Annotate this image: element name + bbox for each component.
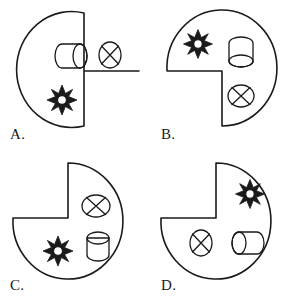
option-d-cell[interactable]: D. bbox=[151, 150, 302, 301]
crossed-ellipse-icon bbox=[82, 195, 110, 217]
notched-disc-outline bbox=[167, 10, 277, 126]
notched-disc-outline bbox=[161, 163, 271, 279]
cylinder-vertical-icon bbox=[87, 232, 109, 261]
option-b-cell[interactable]: B. bbox=[151, 0, 302, 150]
sun-icon bbox=[184, 30, 213, 59]
sun-icon bbox=[236, 180, 265, 209]
option-a-cell[interactable]: A. bbox=[0, 0, 151, 150]
notched-disc-outline bbox=[17, 12, 139, 128]
option-d-label: D. bbox=[161, 278, 176, 293]
sun-icon bbox=[43, 236, 73, 266]
crossed-ellipse-icon bbox=[228, 85, 254, 107]
option-c-label: C. bbox=[10, 278, 24, 293]
option-c-cell[interactable]: C. bbox=[0, 150, 151, 301]
answer-options-grid: A. B. bbox=[0, 0, 302, 301]
cylinder-horizontal-icon bbox=[232, 232, 264, 254]
option-a-label: A. bbox=[10, 127, 25, 142]
crossed-ellipse-icon bbox=[99, 42, 121, 68]
crossed-ellipse-icon bbox=[190, 230, 212, 256]
option-b-label: B. bbox=[161, 127, 175, 142]
sun-icon bbox=[47, 85, 77, 115]
cylinder-horizontal-icon bbox=[55, 44, 87, 68]
cylinder-vertical-icon bbox=[229, 37, 253, 67]
